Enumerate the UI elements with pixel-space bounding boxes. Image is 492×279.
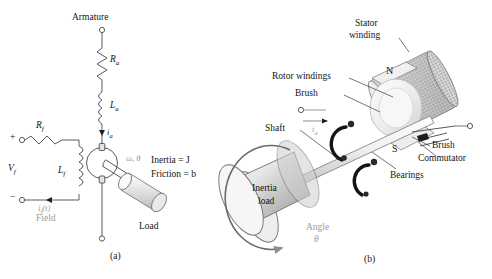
label-stator-winding-line2: winding — [349, 30, 380, 41]
label-armature-current-b: ia — [312, 124, 318, 138]
figure-canvas: Armature Ra La ia Rf Lf Vf + − if(t) Fie… — [0, 0, 492, 279]
label-stator-winding-line1: Stator — [355, 18, 378, 29]
label-armature: Armature — [72, 12, 108, 23]
caption-panel-a: (a) — [110, 251, 121, 262]
label-field-resistance: Rf — [36, 120, 44, 135]
panel-a-drawing — [0, 0, 492, 279]
label-armature-current-a: ia — [107, 127, 113, 141]
label-pole-north: N — [386, 65, 393, 76]
label-brush-left: Brush — [295, 88, 318, 99]
label-minus-terminal: − — [10, 192, 15, 203]
label-field-voltage: Vf — [8, 163, 16, 178]
label-bearings: Bearings — [390, 170, 424, 181]
label-pole-south: S — [392, 143, 398, 154]
label-plus-terminal: + — [10, 132, 15, 143]
caption-panel-b: (b) — [364, 254, 375, 265]
label-rotor-windings: Rotor windings — [272, 71, 331, 82]
label-omega-theta: ω, θ — [126, 153, 140, 164]
label-inertia-j: Inertia = J — [151, 155, 190, 166]
label-commutator: Commutator — [418, 153, 466, 164]
label-inertia-load-line1: Inertia — [252, 183, 277, 194]
label-inertia-load-line2: load — [258, 196, 274, 207]
label-field-word: Field — [36, 213, 56, 224]
label-friction-b: Friction = b — [151, 169, 196, 180]
label-load: Load — [139, 221, 159, 232]
label-armature-inductance: La — [110, 100, 119, 115]
label-armature-resistance: Ra — [110, 54, 119, 69]
label-field-inductance: Lf — [58, 165, 65, 180]
label-angle-line1: Angle — [306, 222, 329, 233]
label-shaft: Shaft — [265, 123, 285, 134]
label-brush-right: Brush — [432, 140, 455, 151]
label-angle-theta: θ — [314, 234, 319, 245]
